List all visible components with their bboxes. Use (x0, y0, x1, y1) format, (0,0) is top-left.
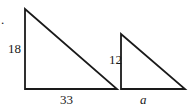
large-triangle-height-label: 18 (8, 41, 21, 56)
large-triangle-base-label: 33 (60, 92, 73, 107)
small-triangle-height-label: 12 (109, 52, 122, 67)
large-triangle (25, 9, 117, 89)
bullet-marker: . (1, 12, 4, 27)
small-triangle (121, 34, 185, 89)
figure-svg: . 18 33 12 a (0, 0, 188, 108)
small-triangle-base-label: a (140, 92, 147, 107)
similar-triangles-figure: . 18 33 12 a (0, 0, 188, 108)
